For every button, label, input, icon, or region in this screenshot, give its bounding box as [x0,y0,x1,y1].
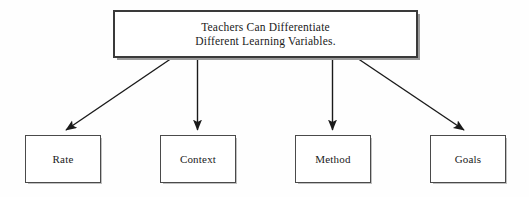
root-node-line-1: Teachers Can Differentiate [201,20,330,35]
leaf-node-context: Context [160,135,236,183]
root-node: Teachers Can Differentiate Different Lea… [113,10,418,58]
leaf-node-method-label: Method [315,153,350,165]
leaf-node-context-label: Context [180,153,216,165]
diagram-canvas: Teachers Can Differentiate Different Lea… [0,0,529,197]
root-node-line-2: Different Learning Variables. [195,34,335,49]
connector-root-to-rate [66,58,172,130]
leaf-node-method: Method [295,135,371,183]
connector-root-to-goals [357,58,464,130]
leaf-node-goals: Goals [430,135,506,183]
leaf-node-rate: Rate [25,135,101,183]
leaf-node-goals-label: Goals [455,153,482,165]
leaf-node-rate-label: Rate [53,153,74,165]
